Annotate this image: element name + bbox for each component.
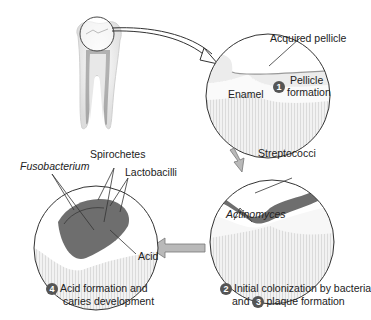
stage23-caption-line2: and 3plaque formation	[232, 295, 345, 308]
stage23-line2-pre: and	[232, 295, 250, 307]
stage23-caption-line1: 2Initial colonization by bacteria	[220, 282, 371, 295]
label-lactobacilli: Lactobacilli	[125, 166, 177, 178]
label-acquired-pellicle: Acquired pellicle	[270, 32, 346, 44]
stage2-badge: 2	[220, 283, 232, 295]
stage1-caption: 1	[273, 74, 287, 87]
stage23-line1: Initial colonization by bacteria	[234, 282, 371, 294]
stage1-title-line2: formation	[287, 86, 331, 98]
label-fusobacterium: Fusobacterium	[20, 160, 89, 172]
stage4-caption-line2: caries development	[63, 295, 154, 307]
label-streptococci: Streptococci	[258, 147, 316, 159]
label-acid: Acid	[138, 250, 158, 262]
stage1-title-line1: Pellicle	[290, 74, 323, 86]
label-actinomyces: Actinomyces	[226, 208, 286, 220]
label-enamel: Enamel	[228, 88, 264, 100]
stage23-line2-post: plaque formation	[266, 295, 344, 307]
stage4-caption-line1: 4Acid formation and	[46, 282, 148, 295]
stage3-badge: 3	[252, 296, 264, 308]
label-spirochetes: Spirochetes	[90, 148, 145, 160]
stage4-line1: Acid formation and	[60, 282, 148, 294]
tooth-illustration	[77, 17, 121, 129]
stage4-badge: 4	[46, 283, 58, 295]
